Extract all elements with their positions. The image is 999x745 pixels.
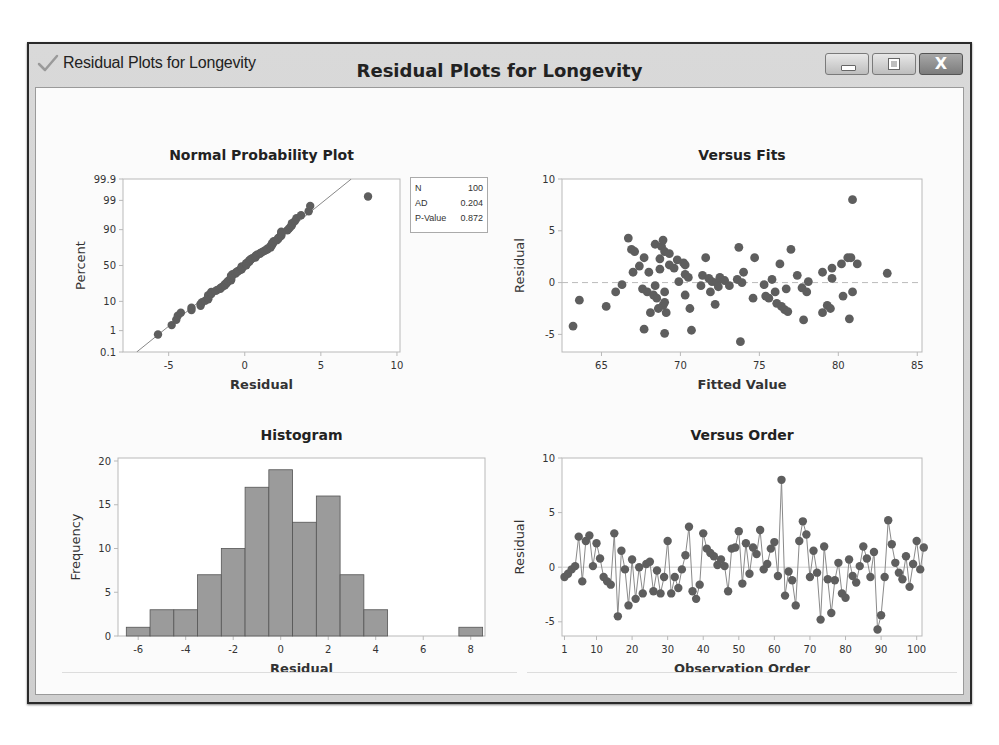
order-point (585, 531, 593, 539)
fits-point (670, 264, 679, 273)
order-point (784, 567, 792, 575)
fits-point (818, 308, 827, 317)
order-point (831, 576, 839, 584)
histogram-bar (198, 575, 222, 636)
svg-text:90: 90 (103, 224, 116, 235)
order-point (816, 615, 824, 623)
order-point (575, 532, 583, 540)
svg-text:-5: -5 (164, 360, 174, 371)
svg-text:-2: -2 (228, 644, 238, 655)
y-axis-label: Frequency (68, 513, 83, 580)
svg-text:20: 20 (98, 456, 111, 467)
svg-text:50: 50 (732, 644, 745, 655)
order-point (792, 601, 800, 609)
order-point (799, 517, 807, 525)
svg-text:6: 6 (420, 644, 426, 655)
order-point (898, 575, 906, 583)
npp-point (364, 192, 372, 200)
order-point (674, 584, 682, 592)
svg-text:0: 0 (549, 562, 555, 573)
svg-text:2: 2 (325, 644, 331, 655)
order-point (688, 587, 696, 595)
svg-text:5: 5 (318, 360, 324, 371)
svg-text:0.1: 0.1 (100, 347, 116, 358)
order-point (592, 539, 600, 547)
fits-point (768, 275, 777, 284)
histogram-bar (269, 470, 293, 636)
svg-text:0: 0 (242, 360, 248, 371)
order-point (695, 580, 703, 588)
fits-point (804, 277, 813, 286)
order-point (877, 611, 885, 619)
order-point (667, 589, 675, 597)
order-point (738, 579, 746, 587)
fits-point (736, 337, 745, 346)
fits-point (750, 253, 759, 262)
svg-text:0: 0 (278, 644, 284, 655)
order-point (834, 559, 842, 567)
order-point (752, 550, 760, 558)
x-axis-label: Residual (230, 377, 293, 392)
npp-point (297, 211, 305, 219)
order-point (845, 555, 853, 563)
fits-point (630, 247, 639, 256)
order-point (912, 537, 920, 545)
residual-plots-canvas: Normal Probability PlotResidualPercent-5… (0, 0, 999, 745)
order-point (656, 589, 664, 597)
fits-point (697, 281, 706, 290)
order-point (646, 558, 654, 566)
order-point (873, 625, 881, 633)
fits-point (828, 274, 837, 283)
fits-point (818, 268, 827, 277)
fits-point (787, 245, 796, 254)
order-point (856, 562, 864, 570)
fits-point (734, 243, 743, 252)
svg-text:30: 30 (661, 644, 674, 655)
order-point (841, 594, 849, 602)
chart-title: Versus Order (690, 427, 793, 443)
fits-point (771, 288, 780, 297)
fits-point (635, 262, 644, 271)
fits-point (624, 234, 633, 243)
fits-point (714, 282, 723, 291)
x-axis-label: Residual (270, 661, 333, 676)
fits-point (760, 280, 769, 289)
order-point (770, 538, 778, 546)
svg-text:60: 60 (768, 644, 781, 655)
versus-order-plot: Versus OrderObservation OrderResidual110… (512, 427, 928, 676)
fits-point (674, 277, 683, 286)
fits-point (711, 300, 720, 309)
x-axis-label: Observation Order (674, 661, 811, 676)
fits-point (847, 253, 856, 262)
order-point (692, 595, 700, 603)
order-point (610, 529, 618, 537)
svg-text:10: 10 (590, 644, 603, 655)
order-point (884, 516, 892, 524)
svg-text:5: 5 (549, 225, 555, 236)
fits-point (845, 314, 854, 323)
svg-text:1: 1 (110, 325, 116, 336)
order-point (866, 573, 874, 581)
svg-text:80: 80 (832, 360, 845, 371)
fits-point (802, 288, 811, 297)
histogram-bar (340, 575, 364, 636)
order-point (681, 551, 689, 559)
fits-point (783, 307, 792, 316)
order-point (806, 573, 814, 581)
histogram-bar (364, 610, 388, 636)
chart-title: Versus Fits (698, 147, 785, 163)
order-point (631, 595, 639, 603)
fits-point (706, 288, 715, 297)
fits-point (793, 271, 802, 280)
order-point (699, 529, 707, 537)
order-point (756, 526, 764, 534)
histogram-bar (459, 627, 483, 636)
order-point (827, 609, 835, 617)
order-point (578, 577, 586, 585)
svg-text:70: 70 (674, 360, 687, 371)
y-axis-label: Residual (512, 238, 527, 293)
order-point (863, 554, 871, 562)
order-point (824, 575, 832, 583)
fits-point (775, 260, 784, 269)
svg-text:0: 0 (549, 277, 555, 288)
